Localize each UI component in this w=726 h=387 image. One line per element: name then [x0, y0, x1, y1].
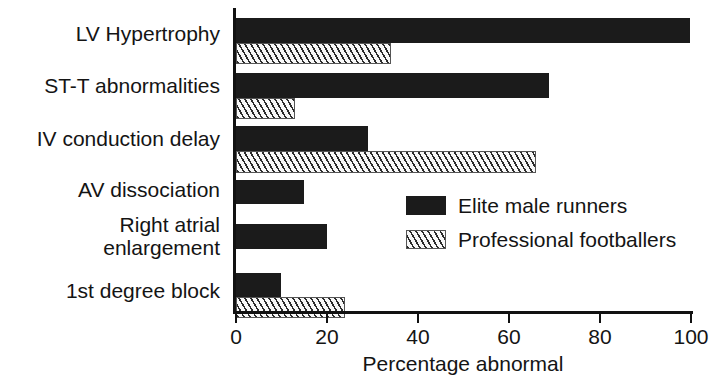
x-tick-0 — [235, 314, 237, 323]
legend-label-elite-male-runners: Elite male runners — [458, 194, 627, 217]
legend-item-professional-footballers: Professional footballers — [406, 222, 676, 256]
x-tick-label-60: 60 — [497, 325, 520, 348]
x-tick-40 — [417, 314, 419, 323]
x-tick-label-80: 80 — [588, 325, 611, 348]
bar-chart-figure: LV Hypertrophy ST-T abnormalities IV con… — [0, 0, 726, 387]
bar-footballers-iv-conduction-delay — [236, 151, 536, 173]
bar-runners-iv-conduction-delay — [236, 126, 368, 151]
legend-label-professional-footballers: Professional footballers — [458, 228, 676, 251]
x-tick-60 — [508, 314, 510, 323]
bar-runners-st-t-abnormalities — [236, 73, 549, 98]
category-axis-labels: LV Hypertrophy ST-T abnormalities IV con… — [0, 0, 228, 312]
bar-runners-right-atrial-enlargement — [236, 224, 327, 249]
x-axis-line — [233, 311, 693, 314]
bar-runners-1st-degree-block — [236, 273, 281, 297]
bar-footballers-st-t-abnormalities — [236, 98, 295, 119]
x-axis-title: Percentage abnormal — [236, 352, 690, 375]
x-tick-label-40: 40 — [406, 325, 429, 348]
category-label-1st-degree-block: 1st degree block — [66, 279, 220, 302]
bar-footballers-lv-hypertrophy — [236, 43, 391, 64]
x-tick-100 — [690, 314, 692, 323]
x-tick-20 — [326, 314, 328, 323]
chart-legend: Elite male runners Professional football… — [406, 188, 676, 256]
category-label-st-t-abnormalities: ST-T abnormalities — [44, 74, 220, 97]
category-label-lv-hypertrophy: LV Hypertrophy — [76, 22, 220, 45]
category-label-av-dissociation: AV dissociation — [78, 178, 220, 201]
bar-runners-av-dissociation — [236, 180, 304, 204]
bar-footballers-1st-degree-block — [236, 297, 345, 318]
plot-area — [236, 8, 690, 312]
legend-item-elite-male-runners: Elite male runners — [406, 188, 676, 222]
category-label-right-atrial-enlargement: Right atrial enlargement — [103, 213, 220, 259]
x-tick-label-0: 0 — [230, 325, 242, 348]
legend-swatch-solid-icon — [406, 196, 446, 215]
bar-runners-lv-hypertrophy — [236, 18, 690, 43]
x-tick-label-20: 20 — [315, 325, 338, 348]
x-tick-80 — [599, 314, 601, 323]
legend-swatch-hatched-icon — [406, 230, 446, 249]
category-label-iv-conduction-delay: IV conduction delay — [37, 127, 220, 150]
x-tick-label-100: 100 — [673, 325, 708, 348]
